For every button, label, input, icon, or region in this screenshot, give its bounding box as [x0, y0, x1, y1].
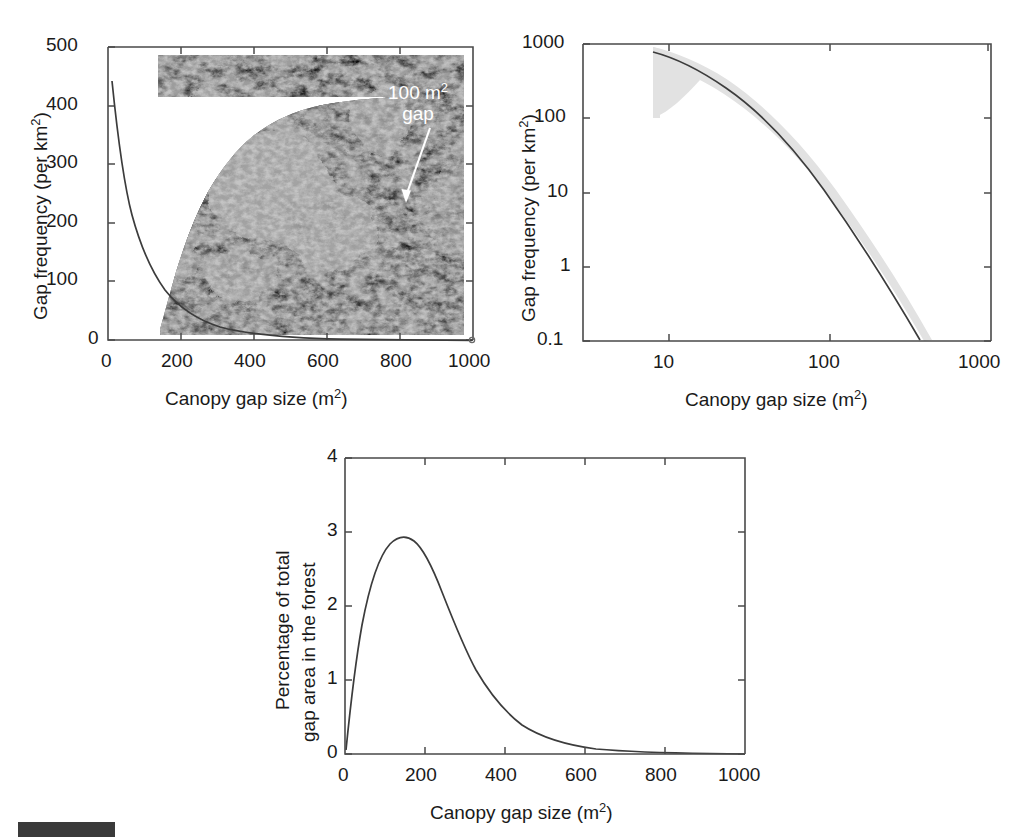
panel-b-ytick-10: 10: [547, 180, 568, 202]
panel-a-ytick-0: 0: [88, 327, 99, 349]
panel-b-xtick-1000: 1000: [958, 351, 1000, 373]
panel-a-gap-annotation: 100 m2 gap: [388, 82, 448, 125]
panel-a-gap-annotation-line1: 100 m2: [388, 82, 448, 103]
panel-c-ytick-4: 4: [327, 445, 338, 467]
panel-a-xtick-600: 600: [307, 350, 339, 372]
panel-a-yaxis-title: Gap frequency (per km2): [30, 112, 52, 320]
cropped-caption-bar: [18, 822, 115, 837]
panel-c-xtick-800: 800: [645, 764, 677, 786]
panel-a-xtick-200: 200: [161, 350, 193, 372]
panel-a-yaxis-title-sup: 2: [28, 119, 43, 126]
panel-a: 500 400 300 200 100 0 0 200 400 600 800 …: [0, 0, 500, 420]
panel-c-ticks: [345, 458, 745, 754]
panel-a-yaxis-title-tail: ): [30, 112, 51, 118]
panel-c-xaxis-title-text: Canopy gap size (m: [430, 802, 599, 823]
panel-c-ytick-0: 0: [327, 741, 338, 763]
panel-c-xtick-1000: 1000: [718, 764, 760, 786]
panel-a-ytick-500: 500: [46, 34, 78, 56]
panel-b-yaxis-title: Gap frequency (per km2): [518, 114, 540, 322]
panel-a-xtick-400: 400: [234, 350, 266, 372]
panel-b-yaxis-title-tail: ): [518, 114, 539, 120]
panel-a-xtick-800: 800: [380, 350, 412, 372]
panel-b-xtick-10: 10: [653, 351, 674, 373]
panel-b-confidence-band: [653, 47, 932, 341]
panel-c-ytick-3: 3: [327, 519, 338, 541]
panel-a-xaxis-title-text: Canopy gap size (m: [165, 388, 334, 409]
panel-a-yaxis-title-text: Gap frequency (per km: [30, 126, 51, 320]
panel-c: 4 3 2 1 0 0 200 400 600 800 1000 Canopy …: [230, 420, 790, 820]
panel-b-ytick-1000: 1000: [522, 31, 564, 53]
panel-c-yaxis-title-line2: gap area in the forest: [298, 562, 320, 742]
panel-b-yaxis-title-sup: 2: [516, 121, 531, 128]
panel-a-gap-annotation-value: 100 m: [388, 82, 441, 103]
panel-c-xtick-400: 400: [485, 764, 517, 786]
panel-b: 1000 100 10 1 0.1 10 100 1000 Canopy gap…: [500, 0, 1019, 420]
panel-b-axes: [583, 44, 991, 341]
panel-c-yaxis-title-line1: Percentage of total: [272, 551, 294, 711]
panel-c-curve: [346, 537, 745, 754]
panel-c-xtick-600: 600: [565, 764, 597, 786]
panel-b-xaxis-title: Canopy gap size (m2): [685, 389, 867, 411]
panel-a-xtick-1000: 1000: [448, 350, 490, 372]
panel-b-ytick-1: 1: [560, 254, 571, 276]
panel-b-ticks: [583, 44, 991, 341]
panel-c-xtick-200: 200: [405, 764, 437, 786]
panel-a-xaxis-title-tail: ): [341, 388, 347, 409]
panel-c-xtick-0: 0: [338, 764, 349, 786]
panel-c-ytick-1: 1: [327, 667, 338, 689]
panel-b-plot: [500, 0, 1019, 420]
panel-c-xaxis-title: Canopy gap size (m2): [430, 802, 612, 824]
panel-a-gap-annotation-sup: 2: [441, 80, 448, 95]
panel-a-gap-annotation-line2: gap: [388, 103, 448, 124]
panel-b-xaxis-title-text: Canopy gap size (m: [685, 389, 854, 410]
panel-b-xaxis-title-tail: ): [861, 389, 867, 410]
panel-c-axes: [345, 458, 745, 754]
panel-c-xaxis-title-tail: ): [606, 802, 612, 823]
panel-b-xtick-100: 100: [808, 351, 840, 373]
panel-a-xaxis-title: Canopy gap size (m2): [165, 388, 347, 410]
panel-a-xtick-0: 0: [101, 350, 112, 372]
panel-b-yaxis-title-text: Gap frequency (per km: [518, 128, 539, 322]
panel-c-ytick-2: 2: [327, 593, 338, 615]
panel-b-ytick-0.1: 0.1: [537, 328, 563, 350]
panel-b-curve: [653, 52, 920, 340]
